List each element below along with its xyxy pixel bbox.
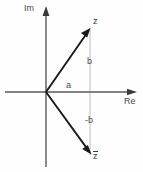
- vector-z-label: z: [93, 17, 98, 26]
- vector-zbar-label: z: [93, 151, 98, 161]
- real-axis-label: Re: [124, 97, 136, 106]
- complex-plane-figure: Im Re z z a b -b: [0, 0, 143, 172]
- vector-z-arrowhead: [81, 28, 91, 38]
- diagram-canvas: [0, 0, 143, 172]
- imaginary-part-positive-label: b: [87, 57, 92, 66]
- imaginary-axis-label: Im: [24, 4, 34, 13]
- real-axis-arrowhead: [127, 89, 137, 96]
- imaginary-part-negative-label: -b: [85, 116, 93, 125]
- imaginary-axis-arrowhead: [43, 6, 50, 16]
- vector-zbar-line: [46, 92, 87, 149]
- vector-zbar-label-text: z: [93, 151, 98, 161]
- real-part-label: a: [66, 81, 71, 90]
